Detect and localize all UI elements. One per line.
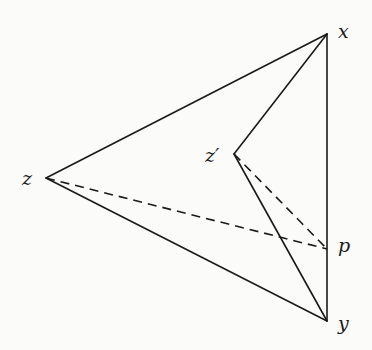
- dashed-edge-zp-p: [234, 154, 327, 249]
- geometry-diagram: x y z z′ p: [0, 0, 372, 350]
- label-p: p: [338, 234, 350, 256]
- label-z: z: [21, 167, 33, 189]
- label-y: y: [337, 312, 349, 334]
- label-x: x: [338, 20, 349, 42]
- dashed-edges: [46, 154, 327, 249]
- edge-z-y: [46, 178, 327, 321]
- label-z-prime: z′: [204, 144, 220, 166]
- edge-x-zp: [234, 34, 327, 154]
- solid-edges: [46, 34, 327, 321]
- edge-x-z: [46, 34, 327, 178]
- dashed-edge-z-p: [46, 178, 327, 249]
